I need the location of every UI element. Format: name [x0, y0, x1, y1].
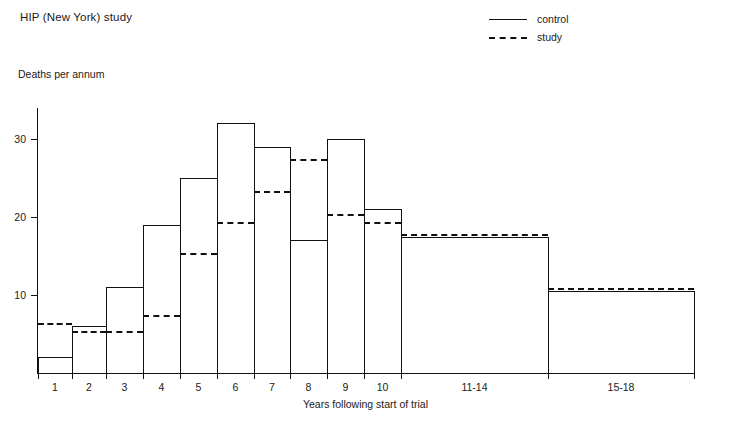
x-axis-tick: [401, 373, 402, 379]
bar-top-study: [180, 253, 217, 255]
y-axis-tick-label: 30: [0, 133, 26, 145]
x-axis-tick: [290, 373, 291, 379]
bar-top-study: [143, 315, 180, 317]
x-axis-tick-label: 2: [86, 381, 92, 393]
y-axis-tick-label: 10: [0, 289, 26, 301]
x-axis-tick: [217, 373, 218, 379]
bar-edge-vertical: [327, 139, 328, 373]
x-axis-tick-label: 6: [233, 381, 239, 393]
y-axis-tick-label: 20: [0, 211, 26, 223]
bar-edge-vertical: [548, 237, 549, 374]
x-axis-tick: [38, 373, 39, 379]
x-axis-label: Years following start of trial: [0, 398, 731, 410]
bar-top-study: [72, 331, 106, 333]
x-axis-tick-label: 8: [306, 381, 312, 393]
bar-edge-vertical: [364, 139, 365, 373]
bar-edge-vertical: [290, 147, 291, 373]
bar-top-study: [401, 234, 548, 236]
x-axis-tick-label: 3: [122, 381, 128, 393]
x-axis-tick-label: 9: [343, 381, 349, 393]
bar-top-control: [180, 178, 217, 179]
x-axis-tick: [72, 373, 73, 379]
bar-top-control: [364, 209, 401, 210]
x-axis-tick-label: 4: [159, 381, 165, 393]
bar-edge-vertical: [254, 123, 255, 373]
x-axis-tick: [106, 373, 107, 379]
x-axis-tick-label: 10: [377, 381, 389, 393]
bar-top-study: [548, 288, 694, 290]
bar-edge-vertical: [38, 357, 39, 373]
bar-top-study: [327, 214, 364, 216]
x-axis-tick: [548, 373, 549, 379]
x-axis-tick-label: 15-18: [608, 381, 635, 393]
x-axis-tick: [364, 373, 365, 379]
bar-top-study: [364, 222, 401, 224]
bar-top-control: [401, 237, 548, 238]
bar-edge-vertical: [143, 225, 144, 373]
y-axis-tick: [31, 295, 38, 296]
bar-top-control: [38, 357, 72, 358]
x-axis-tick-label: 11-14: [461, 381, 487, 393]
y-axis-tick: [31, 217, 38, 218]
bar-top-control: [72, 326, 106, 327]
x-axis-tick: [327, 373, 328, 379]
bar-top-control: [548, 291, 694, 292]
bar-edge-vertical: [217, 123, 218, 373]
plot-area: 1020301234567891011-1415-18: [0, 0, 731, 426]
y-axis-tick: [31, 139, 38, 140]
bar-top-control: [143, 225, 180, 226]
x-axis-tick-label: 5: [196, 381, 202, 393]
bar-top-study: [217, 222, 254, 224]
y-axis-line: [37, 108, 38, 374]
bar-edge-vertical: [694, 291, 695, 373]
bar-top-study: [254, 191, 290, 193]
bar-top-control: [290, 240, 327, 241]
bar-top-study: [290, 159, 327, 161]
x-axis-tick: [694, 373, 695, 379]
x-axis-tick-label: 1: [52, 381, 58, 393]
bar-edge-vertical: [180, 178, 181, 373]
x-axis-tick-label: 7: [269, 381, 275, 393]
bar-top-control: [106, 287, 143, 288]
bar-top-control: [254, 147, 290, 148]
bar-top-control: [217, 123, 254, 124]
bar-edge-vertical: [72, 326, 73, 373]
bar-top-study: [106, 331, 143, 333]
x-axis-tick: [143, 373, 144, 379]
bar-top-control: [327, 139, 364, 140]
bar-top-study: [38, 323, 72, 325]
x-axis-line: [37, 373, 695, 374]
chart-page: HIP (New York) study Deaths per annum co…: [0, 0, 731, 426]
x-axis-tick: [180, 373, 181, 379]
x-axis-tick: [254, 373, 255, 379]
